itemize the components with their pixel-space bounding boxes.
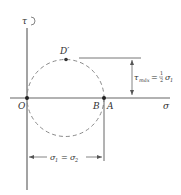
point-origin xyxy=(25,96,29,100)
tau-max-formula: τ máx = 1 2 σ 1 xyxy=(134,70,173,83)
mohr-circle-diagram: τ σ O B A D′ τ máx = 1 2 σ 1 σ 1 = σ 2 xyxy=(0,0,181,195)
label-b: B xyxy=(92,101,100,111)
rotation-arrow-icon xyxy=(31,17,35,25)
svg-text:1: 1 xyxy=(55,157,58,163)
svg-text:2: 2 xyxy=(160,77,163,83)
point-d-prime xyxy=(64,58,68,62)
sigma-dimension-formula: σ 1 = σ 2 xyxy=(50,153,78,163)
tau-axis-label: τ xyxy=(22,16,28,26)
label-origin: O xyxy=(18,101,26,111)
svg-text:=: = xyxy=(61,153,68,162)
label-a: A xyxy=(106,101,114,111)
svg-text:máx: máx xyxy=(139,77,150,83)
svg-text:1: 1 xyxy=(170,77,173,83)
svg-text:2: 2 xyxy=(74,157,78,163)
svg-text:1: 1 xyxy=(160,70,163,76)
point-a xyxy=(102,96,106,100)
svg-text:=: = xyxy=(151,73,158,82)
label-d-prime: D′ xyxy=(59,46,69,56)
sigma-axis-label: σ xyxy=(163,101,170,111)
